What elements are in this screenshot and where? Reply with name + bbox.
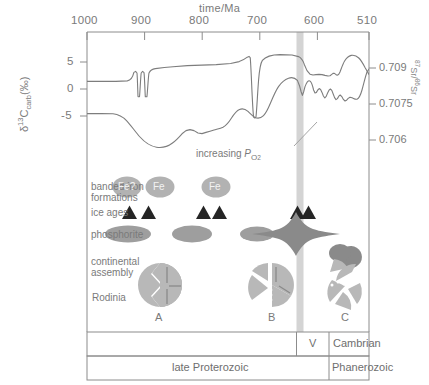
left-axis-unit: (‰): [18, 77, 30, 95]
continent-circle-a: [138, 263, 182, 307]
x-tick-900: 900: [131, 14, 151, 26]
d13c-curve: [87, 55, 369, 118]
sr-tick-0709: 0.709: [379, 61, 407, 73]
sr-tick-07075: 0.7075: [379, 97, 413, 109]
era-label-vendian: V: [309, 337, 316, 349]
figure-canvas: [0, 0, 429, 385]
era-label-phanerozoic: Phanerozoic: [332, 361, 393, 373]
row-label-ice-ages: ice ages: [91, 207, 128, 218]
y-tick-5: 5: [67, 55, 74, 67]
continent-label-c: C: [341, 311, 349, 323]
ice-age-triangle: [212, 206, 227, 220]
continent-circle-c: [327, 244, 362, 310]
era-label-cambrian: Cambrian: [333, 337, 381, 349]
po2-shaded-band: [297, 32, 304, 332]
row-label-phosphorite: phosphorite: [91, 229, 143, 240]
row-label-continental-line2: assembly: [91, 267, 133, 278]
x-tick-700: 700: [247, 14, 267, 26]
bif-label-fe-2: Fe: [209, 181, 221, 192]
left-axis-title: δ13Ccarb(‰): [16, 77, 33, 132]
right-axis-ticks: [369, 68, 376, 140]
left-axis-delta: δ: [18, 126, 30, 132]
continent-circle-b: [248, 263, 294, 307]
ice-age-triangle: [141, 206, 156, 220]
x-axis-ticks: [87, 32, 369, 40]
phosphorite-ellipse: [172, 226, 212, 243]
bif-label-fe-q: Fe?: [118, 181, 135, 192]
sr-tick-0706: 0.706: [379, 133, 407, 145]
right-axis-title: 87Sr/86Sr: [409, 60, 421, 95]
x-tick-1000: 1000: [71, 14, 98, 26]
phosphorite-blob-large: [252, 212, 340, 256]
x-tick-800: 800: [189, 14, 209, 26]
ice-age-markers: [122, 206, 316, 220]
x-tick-600: 600: [304, 14, 324, 26]
figure-root: time/Ma 1000 900 800 700 600 510 5 0 -5 …: [0, 0, 429, 385]
po2-annotation: increasing PO2: [196, 148, 261, 162]
era-label-late-proterozoic: late Proterozoic: [172, 361, 248, 373]
sr-el-2: Sr: [409, 86, 419, 95]
continent-label-b: B: [268, 311, 275, 323]
row-label-continental-line1: continental: [91, 256, 139, 267]
row-label-continental-assembly: continental assembly: [91, 256, 139, 278]
left-axis-ticks: [80, 62, 87, 116]
x-axis-title: time/Ma: [199, 2, 240, 14]
po2-text: increasing: [196, 148, 244, 159]
y-tick-neg5: -5: [61, 109, 72, 121]
continent-label-rodinia: Rodinia: [92, 292, 126, 303]
sr-sup-86: 86: [414, 79, 421, 86]
x-tick-510: 510: [357, 14, 377, 26]
y-tick-0: 0: [67, 82, 74, 94]
bif-label-fe-1: Fe: [153, 181, 165, 192]
sr-el-1: Sr: [409, 67, 419, 76]
left-axis-sub: carb: [24, 95, 33, 110]
continent-label-a: A: [155, 311, 162, 323]
ice-age-triangle: [196, 206, 211, 220]
row-label-banded-iron-line2: formations: [91, 192, 138, 203]
po2-symbol-2: 2: [257, 154, 261, 161]
left-axis-sup: 13: [16, 118, 25, 126]
left-axis-main: C: [18, 110, 30, 118]
